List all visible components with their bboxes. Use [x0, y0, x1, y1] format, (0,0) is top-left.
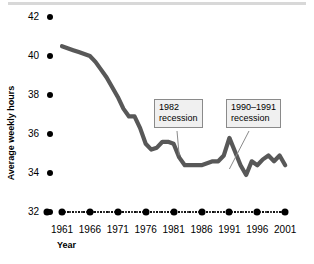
x-axis-minor-dot: [184, 211, 186, 213]
annotation-1990-line1: 1990–1991: [231, 102, 276, 113]
x-axis-minor-dot: [147, 211, 149, 213]
x-axis-minor-dot: [72, 211, 74, 213]
x-axis-minor-dot: [75, 211, 77, 213]
x-axis-minor-dot: [114, 211, 116, 213]
x-axis-minor-dot: [203, 211, 205, 213]
x-axis-minor-dot: [212, 211, 214, 213]
x-axis-minor-dot: [156, 211, 158, 213]
x-axis-minor-dot: [120, 211, 122, 213]
x-axis-minor-dot: [214, 211, 216, 213]
x-axis-minor-dot: [97, 211, 99, 213]
x-axis-minor-dot: [139, 211, 141, 213]
annotation-1990-line2: recession: [231, 113, 276, 124]
x-axis-minor-dot: [259, 211, 261, 213]
x-axis-minor-dot: [103, 211, 105, 213]
x-axis-minor-dot: [175, 211, 177, 213]
x-axis-minor-dot: [131, 211, 133, 213]
x-axis-minor-dot: [198, 211, 200, 213]
x-axis-minor-dot: [78, 211, 80, 213]
x-axis-minor-dot: [187, 211, 189, 213]
x-axis-minor-dot: [254, 211, 256, 213]
x-axis-tick-label-1971: 1971: [107, 224, 129, 235]
x-axis-minor-dot: [164, 211, 166, 213]
x-axis-minor-dot: [220, 211, 222, 213]
x-axis-minor-dot: [142, 211, 144, 213]
x-axis-minor-dot: [206, 211, 208, 213]
annotation-1982-line2: recession: [159, 113, 198, 124]
x-axis-tick-label-1976: 1976: [135, 224, 157, 235]
x-axis-minor-dot: [267, 211, 269, 213]
annotation-1982-line1: 1982: [159, 102, 198, 113]
x-axis-minor-dot: [270, 211, 272, 213]
x-axis-minor-dot: [170, 211, 172, 213]
x-axis-minor-dot: [100, 211, 102, 213]
x-axis-minor-dot: [153, 211, 155, 213]
x-axis-minor-dot: [94, 211, 96, 213]
x-axis-minor-dot: [136, 211, 138, 213]
x-axis-minor-dot: [108, 211, 110, 213]
x-axis-minor-dot: [234, 211, 236, 213]
x-axis-minor-dot: [128, 211, 130, 213]
x-axis-minor-dot: [111, 211, 113, 213]
x-axis-minor-dot: [226, 211, 228, 213]
x-axis-minor-dot: [209, 211, 211, 213]
x-axis-minor-dot: [279, 211, 281, 213]
x-axis-minor-dot: [195, 211, 197, 213]
x-axis-minor-dot: [223, 211, 225, 213]
x-axis-minor-dot: [189, 211, 191, 213]
x-axis-tick-label-1961: 1961: [51, 224, 73, 235]
x-axis-title: Year: [57, 240, 76, 250]
x-axis-minor-dot: [242, 211, 244, 213]
x-axis-minor-dot: [69, 211, 71, 213]
x-axis-tick-label-1991: 1991: [218, 224, 240, 235]
x-axis-tick-label-1986: 1986: [190, 224, 212, 235]
x-axis-minor-dot: [67, 211, 69, 213]
x-axis-origin-dot: [44, 209, 51, 216]
x-axis-minor-dot: [248, 211, 250, 213]
x-axis-minor-dot: [125, 211, 127, 213]
x-axis-minor-dot: [273, 211, 275, 213]
x-axis-minor-dot: [64, 211, 66, 213]
chart-container: Average weekly hours 323436384042 196119…: [0, 0, 314, 264]
x-axis-minor-dot: [83, 211, 85, 213]
x-axis-minor-dot: [106, 211, 108, 213]
x-axis-minor-dot: [86, 211, 88, 213]
x-axis-minor-dot: [231, 211, 233, 213]
annotation-1982-recession: 1982 recession: [154, 99, 203, 128]
x-axis-minor-dot: [178, 211, 180, 213]
x-axis-minor-dot: [181, 211, 183, 213]
x-axis-minor-dot: [237, 211, 239, 213]
x-axis-minor-dot: [134, 211, 136, 213]
x-axis-minor-dot: [276, 211, 278, 213]
x-axis-tick-label-1981: 1981: [162, 224, 184, 235]
annotation-1990-1991-recession: 1990–1991 recession: [226, 99, 281, 128]
x-axis-tick-label-1996: 1996: [246, 224, 268, 235]
x-axis-minor-dot: [251, 211, 253, 213]
x-axis-tick-label-1966: 1966: [79, 224, 101, 235]
x-axis-minor-dot: [150, 211, 152, 213]
x-axis-minor-dot: [281, 211, 283, 213]
x-axis-minor-dot: [265, 211, 267, 213]
x-axis-minor-dot: [81, 211, 83, 213]
x-axis-minor-dot: [122, 211, 124, 213]
x-axis-minor-dot: [167, 211, 169, 213]
x-axis-minor-dot: [217, 211, 219, 213]
x-axis-minor-dot: [159, 211, 161, 213]
x-axis-minor-dot: [92, 211, 94, 213]
x-axis-minor-dot: [161, 211, 163, 213]
x-axis-tick-label-2001: 2001: [274, 224, 296, 235]
x-axis-minor-dot: [262, 211, 264, 213]
x-axis-minor-dot: [240, 211, 242, 213]
x-axis-minor-dot: [192, 211, 194, 213]
x-axis-minor-dot: [245, 211, 247, 213]
